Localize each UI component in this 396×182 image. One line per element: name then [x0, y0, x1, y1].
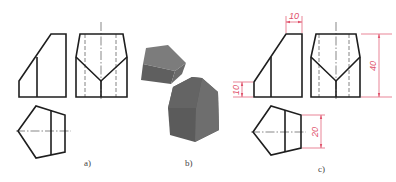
dimension-pentagon-side: 20 — [302, 115, 325, 148]
panel-label-a: a) — [84, 158, 91, 168]
side-view-c — [311, 22, 360, 99]
panel-c: 10 10 40 20 c) — [231, 11, 392, 174]
front-view-c — [254, 34, 302, 97]
panel-label-c: c) — [318, 164, 325, 174]
top-view-a — [16, 106, 71, 158]
dim-text-top-width: 10 — [289, 11, 299, 21]
panel-b: b) — [141, 45, 219, 168]
panel-a: a) — [16, 22, 127, 168]
dim-text-left-height: 10 — [231, 85, 241, 95]
panel-label-b: b) — [185, 158, 193, 168]
dimension-left-height: 10 — [231, 82, 253, 97]
cut-piece-3d — [141, 45, 186, 84]
dimension-overall-height: 40 — [361, 34, 392, 97]
prism-3d — [168, 77, 219, 142]
top-view-c — [251, 106, 306, 155]
front-view-a — [19, 34, 66, 97]
side-view-a — [76, 22, 127, 99]
dim-text-pentagon-side: 20 — [310, 127, 320, 138]
technical-drawing: a) b) — [0, 0, 396, 182]
dim-text-overall-height: 40 — [368, 61, 378, 71]
dimension-top-width: 10 — [286, 11, 302, 33]
